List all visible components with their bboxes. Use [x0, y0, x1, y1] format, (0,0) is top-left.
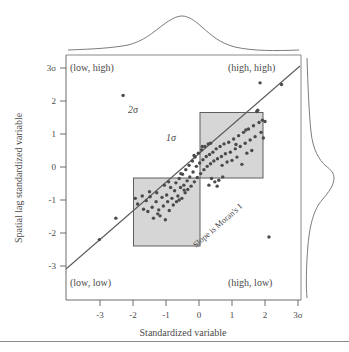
data-point — [169, 186, 172, 189]
data-point — [166, 200, 169, 203]
data-point — [164, 218, 167, 221]
data-point — [245, 151, 248, 154]
data-point — [187, 164, 190, 167]
data-point — [156, 212, 159, 215]
x-tick-label-neg2: -2 — [129, 310, 137, 320]
x-tick-label-0: 0 — [197, 310, 202, 320]
data-point — [221, 175, 224, 178]
quadrant-label-low-high: (low, high) — [70, 62, 114, 74]
data-point — [244, 142, 247, 145]
quadrant-label-high-low: (high, low) — [228, 277, 272, 289]
data-point — [191, 170, 194, 173]
y-tick-marks — [60, 68, 66, 266]
data-point — [232, 137, 235, 140]
data-point — [209, 162, 212, 165]
data-point — [155, 191, 158, 194]
data-point — [199, 172, 202, 175]
data-point — [202, 168, 205, 171]
data-point — [198, 161, 201, 164]
data-point — [178, 177, 181, 180]
y-tick-label-3sigma: 3σ — [47, 63, 57, 73]
data-point — [200, 148, 203, 151]
data-point — [185, 179, 188, 182]
y-tick-label-2: 2 — [52, 96, 57, 106]
data-point — [205, 155, 208, 158]
y-tick-labels: 3σ 2 1 0 -1 -2 -3 — [47, 63, 57, 271]
top-marginal-density — [68, 16, 299, 51]
y-tick-label-neg2: -2 — [49, 228, 57, 238]
data-point — [193, 180, 196, 183]
data-point — [182, 188, 185, 191]
data-point — [146, 210, 149, 213]
data-point — [197, 151, 200, 154]
data-point — [220, 155, 223, 158]
data-point — [224, 152, 227, 155]
x-tick-label-neg3: -3 — [96, 310, 104, 320]
data-point — [154, 200, 157, 203]
data-point — [152, 216, 155, 219]
data-point — [134, 197, 137, 200]
data-point — [114, 216, 117, 219]
data-point — [280, 83, 283, 86]
data-point — [216, 157, 219, 160]
right-marginal-density — [306, 58, 334, 298]
annotation-2sigma: 2σ — [128, 104, 139, 115]
data-point — [179, 172, 182, 175]
data-point — [218, 145, 221, 148]
data-point — [234, 147, 237, 150]
data-point — [227, 141, 230, 144]
data-point — [225, 160, 228, 163]
y-tick-label-neg1: -1 — [49, 195, 57, 205]
data-point — [145, 199, 148, 202]
moran-scatterplot-figure: 3σ 2 1 0 -1 -2 -3 -3 -2 -1 0 1 2 3σ (low… — [0, 0, 349, 352]
data-point — [210, 177, 213, 180]
data-point — [184, 168, 187, 171]
data-point — [214, 147, 217, 150]
x-tick-label-3sigma: 3σ — [293, 310, 303, 320]
data-point — [174, 181, 177, 184]
data-point — [148, 195, 151, 198]
quadrant-label-high-high: (high, high) — [228, 62, 275, 74]
y-tick-label-1: 1 — [52, 129, 57, 139]
data-point — [168, 209, 171, 212]
data-point — [195, 165, 198, 168]
data-point — [98, 238, 101, 241]
data-point — [248, 138, 251, 141]
data-point — [173, 189, 176, 192]
data-point — [237, 134, 240, 137]
data-point — [239, 145, 242, 148]
data-point — [235, 155, 238, 158]
data-point — [192, 154, 195, 157]
data-point — [170, 197, 173, 200]
data-point — [267, 235, 270, 238]
data-point — [176, 194, 179, 197]
data-point — [201, 158, 204, 161]
data-point — [222, 142, 225, 145]
data-point — [165, 193, 168, 196]
data-point — [253, 135, 256, 138]
y-axis-title: Spatial lag standardized variable — [13, 112, 24, 243]
data-point — [157, 208, 160, 211]
data-point — [212, 159, 215, 162]
data-point — [136, 202, 139, 205]
data-point — [196, 176, 199, 179]
data-point — [150, 206, 153, 209]
page-bottom-rule — [0, 341, 349, 342]
data-point — [229, 150, 232, 153]
data-point — [179, 186, 182, 189]
data-point — [188, 175, 191, 178]
data-point — [252, 124, 255, 127]
data-point — [259, 131, 262, 134]
x-tick-label-2: 2 — [263, 310, 268, 320]
y-tick-label-0: 0 — [52, 162, 57, 172]
data-point — [148, 190, 151, 193]
x-tick-marks — [100, 300, 298, 306]
data-point — [189, 184, 192, 187]
data-point — [230, 159, 233, 162]
data-point — [211, 150, 214, 153]
data-point — [213, 180, 216, 183]
data-point — [167, 180, 170, 183]
data-point — [215, 184, 218, 187]
data-point — [182, 183, 185, 186]
x-tick-label-1: 1 — [230, 310, 235, 320]
